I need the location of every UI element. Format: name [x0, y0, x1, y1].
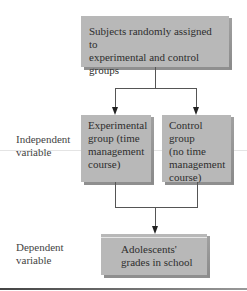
connector-line	[115, 88, 116, 108]
connector-line	[115, 207, 198, 208]
connector-line	[155, 207, 156, 227]
node-text-line: Adolescents'	[121, 243, 203, 256]
arrow-down-icon	[193, 107, 199, 115]
node-text-line: course)	[88, 158, 147, 171]
label-line: variable	[16, 254, 64, 267]
independent-variable-label: Independent variable	[16, 133, 70, 159]
connector-line	[115, 88, 197, 89]
arrow-down-icon	[152, 226, 158, 234]
node-random-assignment: Subjects randomly assigned to experiment…	[81, 16, 229, 67]
node-text-line: course)	[169, 171, 227, 184]
label-line: variable	[16, 146, 70, 159]
node-text-line: group (time	[88, 132, 147, 145]
connector-line	[155, 67, 156, 88]
node-text-line: Experimental	[88, 119, 147, 132]
box-highlight	[101, 237, 207, 238]
arrow-down-icon	[112, 107, 118, 115]
node-text-line: management	[169, 158, 227, 171]
dependent-variable-label: Dependent variable	[16, 241, 64, 267]
connector-line	[197, 182, 198, 208]
connector-line	[115, 182, 116, 208]
node-control-group: Control group (no time management course…	[162, 115, 231, 182]
node-text-line: Subjects randomly assigned to	[89, 25, 223, 51]
node-text-line: (no time	[169, 145, 227, 158]
node-text-line: grades in school	[121, 256, 203, 269]
node-text-line: Control group	[169, 119, 227, 145]
node-text-line: management	[88, 145, 147, 158]
bottom-divider	[0, 288, 247, 290]
connector-line	[196, 88, 197, 108]
node-text-line: experimental and control groups	[89, 51, 223, 77]
node-experimental-group: Experimental group (time management cour…	[81, 115, 151, 182]
node-adolescents-grades: Adolescents' grades in school	[101, 234, 207, 275]
label-line: Dependent	[16, 241, 64, 254]
label-line: Independent	[16, 133, 70, 146]
